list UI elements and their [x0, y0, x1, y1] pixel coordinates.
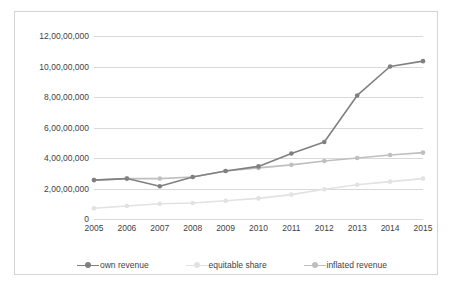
x-tick-label: 2008 — [183, 224, 202, 233]
gridline — [94, 219, 423, 220]
x-tick-label: 2006 — [117, 224, 136, 233]
data-point — [190, 175, 195, 180]
data-point — [355, 93, 360, 98]
legend-label-inflated-revenue: inflated revenue — [327, 261, 388, 270]
data-point — [388, 179, 393, 184]
legend-label-own-revenue: own revenue — [100, 261, 149, 270]
data-point — [355, 156, 360, 161]
legend-marker-equitable-share — [186, 260, 208, 270]
data-point — [256, 196, 261, 201]
data-point — [388, 153, 393, 158]
data-point — [289, 163, 294, 168]
data-point — [322, 140, 327, 145]
data-point — [421, 59, 426, 64]
legend-dot-equitable-share — [194, 262, 200, 268]
data-point — [125, 176, 130, 181]
legend-item-inflated-revenue[interactable]: inflated revenue — [304, 260, 388, 270]
x-tick-label: 2015 — [414, 224, 433, 233]
data-point — [355, 182, 360, 187]
y-axis-labels: 02,00,00,0004,00,00,0006,00,00,0008,00,0… — [24, 36, 89, 219]
x-tick-label: 2012 — [315, 224, 334, 233]
legend-label-equitable-share: equitable share — [209, 261, 267, 270]
data-point — [223, 169, 228, 174]
x-axis-labels: 2005200620072008200920102011201220132014… — [94, 224, 423, 238]
data-point — [322, 159, 327, 164]
data-point — [125, 204, 130, 209]
legend-dot-own-revenue — [85, 262, 91, 268]
plot-area — [94, 36, 423, 219]
data-point — [190, 201, 195, 206]
data-point — [92, 178, 97, 183]
x-tick-label: 2014 — [381, 224, 400, 233]
legend-dot-inflated-revenue — [312, 262, 318, 268]
legend-item-equitable-share[interactable]: equitable share — [186, 260, 267, 270]
data-point — [289, 151, 294, 156]
series-layer — [94, 36, 423, 219]
x-tick-label: 2007 — [150, 224, 169, 233]
data-point — [158, 184, 163, 189]
y-tick-label: 8,00,00,000 — [44, 93, 89, 102]
chart-container: 02,00,00,0004,00,00,0006,00,00,0008,00,0… — [14, 11, 438, 275]
x-tick-label: 2009 — [216, 224, 235, 233]
data-point — [289, 192, 294, 197]
chart-legend: own revenue equitable share inflated rev… — [77, 257, 387, 273]
data-point — [388, 64, 393, 69]
legend-marker-own-revenue — [77, 260, 99, 270]
legend-item-own-revenue[interactable]: own revenue — [77, 260, 149, 270]
data-point — [256, 164, 261, 169]
data-point — [421, 176, 426, 181]
data-point — [223, 198, 228, 203]
y-tick-label: 0 — [84, 215, 89, 224]
y-tick-label: 10,00,00,000 — [39, 62, 89, 71]
data-point — [421, 150, 426, 155]
y-tick-label: 12,00,00,000 — [39, 32, 89, 41]
legend-marker-inflated-revenue — [304, 260, 326, 270]
x-tick-label: 2013 — [348, 224, 367, 233]
y-tick-label: 4,00,00,000 — [44, 154, 89, 163]
data-point — [322, 187, 327, 192]
x-tick-label: 2005 — [85, 224, 104, 233]
y-tick-label: 6,00,00,000 — [44, 123, 89, 132]
y-tick-label: 2,00,00,000 — [44, 184, 89, 193]
x-tick-label: 2011 — [282, 224, 300, 233]
data-point — [92, 206, 97, 211]
data-point — [158, 176, 163, 181]
data-point — [158, 201, 163, 206]
x-tick-label: 2010 — [249, 224, 268, 233]
